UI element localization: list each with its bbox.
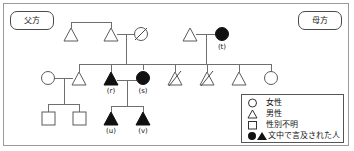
symbol-male-g1-maternal (183, 28, 197, 41)
symbol-male-g2-plain (232, 72, 246, 85)
legend-row-female: 女性 (247, 97, 343, 108)
person-label-s: (s) (131, 87, 155, 95)
symbol-female-g2-s-affected (137, 72, 150, 85)
symbol-female-g2-spouse (42, 72, 55, 85)
generation-2-symbols (42, 71, 278, 86)
legend-row-mentioned: 文中で言及された人 (247, 130, 343, 141)
legend-label-mentioned: 文中で言及された人 (268, 130, 340, 141)
symbol-male-g1-paternal-2 (104, 28, 118, 41)
generation-3-symbols (42, 112, 150, 125)
legend-row-male: 男性 (247, 108, 343, 119)
legend-label-female: 女性 (266, 97, 282, 108)
legend-row-unknown-sex: 性別不明 (247, 119, 343, 130)
square-icon (247, 120, 266, 130)
symbol-male-g2-r-affected (104, 72, 118, 85)
legend-label-unknown-sex: 性別不明 (266, 119, 298, 130)
connector-lines (48, 22, 271, 112)
symbol-unknown-g3-2 (73, 112, 86, 125)
person-label-u: (u) (99, 127, 123, 135)
legend-label-male: 男性 (266, 108, 282, 119)
triangle-icon (247, 109, 266, 119)
person-label-v: (v) (131, 127, 155, 135)
symbol-male-g3-v-affected (136, 112, 150, 125)
symbol-male-g3-u-affected (104, 112, 118, 125)
symbol-female-g1-t-affected (216, 28, 229, 41)
circle-icon (247, 98, 266, 108)
symbol-female-g2-plain (265, 72, 278, 85)
symbol-unknown-g3-1 (42, 112, 55, 125)
legend-box: 女性 男性 性別不明 文中で言及された人 (241, 94, 344, 143)
symbol-male-g2-spouse (72, 72, 86, 85)
symbol-male-g1-paternal-1 (64, 28, 78, 41)
person-label-r: (r) (99, 87, 123, 95)
filled-circle-triangle-icon (247, 131, 268, 141)
sibship-line-paternal-g1 (71, 22, 111, 28)
person-label-t: (t) (210, 43, 234, 51)
pedigree-figure: 父方 母方 (0, 0, 354, 151)
